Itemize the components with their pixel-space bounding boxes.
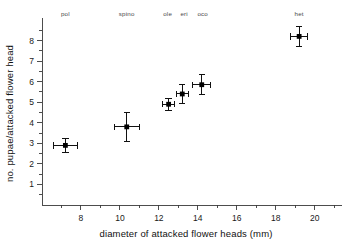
group-label-oco: oco (197, 10, 208, 17)
y-tick-label: 8 (29, 36, 34, 46)
data-point-group (290, 26, 308, 47)
x-tick-label: 10 (115, 213, 125, 223)
y-tick-label: 5 (29, 97, 34, 107)
data-point-group (176, 85, 188, 104)
y-tick-label: 4 (29, 118, 34, 128)
scatter-chart-figure: 810121416182012345678polspinooleeriocohe… (0, 0, 350, 245)
x-tick-label: 14 (193, 213, 203, 223)
data-marker (180, 92, 185, 97)
data-marker (124, 124, 129, 129)
y-tick-label: 1 (29, 179, 34, 189)
x-tick-label: 18 (271, 213, 281, 223)
y-tick-label: 2 (29, 159, 34, 169)
data-point-group (163, 98, 175, 110)
group-label-spino: spino (119, 10, 135, 17)
x-tick-label: 12 (154, 213, 164, 223)
data-point-group (54, 138, 77, 152)
data-point-group (193, 74, 211, 95)
plot-canvas: 810121416182012345678polspinooleeriocohe… (0, 0, 350, 245)
group-label-ole: ole (163, 10, 172, 17)
x-axis-title: diameter of attacked flower heads (mm) (99, 228, 272, 239)
group-label-eri: eri (180, 10, 187, 17)
y-tick-label: 7 (29, 56, 34, 66)
y-tick-label: 3 (29, 138, 34, 148)
x-tick-label: 20 (310, 213, 320, 223)
y-tick-label: 6 (29, 77, 34, 87)
data-marker (166, 102, 171, 107)
data-point-group (114, 112, 139, 142)
y-axis-title: no. pupae/attacked flower head (4, 45, 15, 182)
group-label-pol: pol (61, 10, 70, 17)
group-label-het: het (295, 10, 304, 17)
data-marker (63, 143, 68, 148)
x-tick-label: 8 (79, 213, 84, 223)
data-marker (199, 82, 204, 87)
data-marker (297, 34, 302, 39)
x-tick-label: 16 (232, 213, 242, 223)
